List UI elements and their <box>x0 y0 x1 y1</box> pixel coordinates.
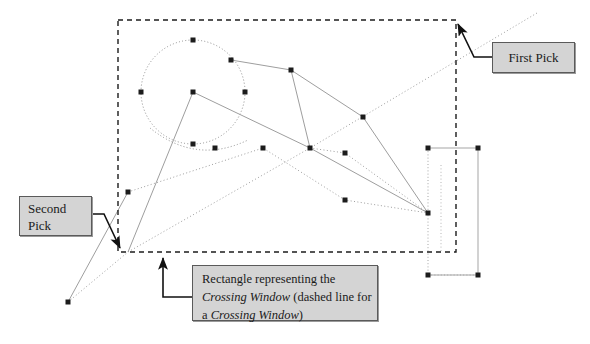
callout-first-pick[interactable]: First Pick <box>492 42 575 73</box>
grip-poly-top <box>289 68 294 73</box>
geometry-entities <box>68 13 537 302</box>
leader-crossing-window <box>163 258 192 297</box>
callout-first-pick-label: First Pick <box>508 50 558 66</box>
grip-circle-bottom <box>191 142 196 147</box>
grip-circle-center <box>191 90 196 95</box>
callout-cw-line1-text: Rectangle representing the <box>202 272 335 286</box>
grip-circle-upper-right <box>229 58 234 63</box>
right-rect-solid <box>428 148 478 275</box>
solid-node-down <box>291 70 310 148</box>
callout-cw-line2: Crossing Window (dashed line for <box>202 289 372 307</box>
leader-second-pick <box>92 214 120 248</box>
solid-vee-left <box>128 92 193 252</box>
leader-first-pick <box>458 24 492 57</box>
grip-outside-point <box>66 300 71 305</box>
callout-cw-term-2: Crossing Window <box>211 308 299 322</box>
dotted-long-diagonal <box>68 13 537 302</box>
grip-poly-branch <box>343 151 348 156</box>
solid-lower-long <box>310 148 428 213</box>
callout-second-pick[interactable]: Second Pick <box>19 196 92 236</box>
callout-cw-line3-head: a <box>202 308 211 322</box>
callout-cw-term-1: Crossing Window <box>202 290 290 304</box>
solid-vee-right <box>193 92 310 148</box>
grip-circle-top <box>191 38 196 43</box>
callout-second-pick-line2: Pick <box>28 218 51 234</box>
callout-cw-line1: Rectangle representing the <box>202 271 335 289</box>
grip-poly-mid-right <box>361 115 366 120</box>
callout-cw-line2-tail: (dashed line for <box>290 290 372 304</box>
grip-rect-ml <box>426 211 431 216</box>
diagram-stage: First Pick Second Pick Rectangle represe… <box>0 0 590 344</box>
grip-poly-node <box>261 146 266 151</box>
grip-rect-br <box>476 273 481 278</box>
callout-cw-line3: a Crossing Window) <box>202 307 303 325</box>
grip-circle-right <box>243 90 248 95</box>
grip-arc-left <box>213 146 218 151</box>
grip-rect-bl <box>426 273 431 278</box>
grip-rect-tl <box>426 146 431 151</box>
callout-crossing-window[interactable]: Rectangle representing the Crossing Wind… <box>192 265 378 321</box>
crossing-window-rect <box>118 20 456 252</box>
grip-poly-node-b <box>308 146 313 151</box>
grip-rect-tr <box>476 146 481 151</box>
callout-second-pick-line1: Second <box>28 201 66 217</box>
grip-poly-lower <box>343 198 348 203</box>
grip-circle-left <box>139 90 144 95</box>
arc-entity <box>150 128 248 150</box>
grip-poly-lower-left <box>126 190 131 195</box>
callout-cw-line3-tail: ) <box>299 308 303 322</box>
